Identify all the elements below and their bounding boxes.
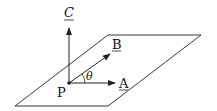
vector-plane-diagram: P θ A B C: [0, 0, 217, 111]
label-theta: θ: [86, 70, 93, 83]
label-b: B: [112, 37, 122, 52]
label-c: C: [64, 5, 74, 20]
label-p: P: [57, 85, 66, 100]
point-p: [67, 81, 71, 85]
angle-arc: [82, 74, 85, 83]
label-a: A: [118, 76, 129, 91]
plane: [15, 35, 201, 106]
